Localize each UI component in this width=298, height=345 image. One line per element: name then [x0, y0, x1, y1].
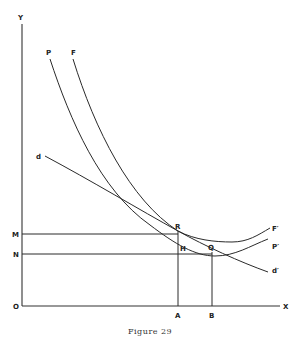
origin-label: O	[13, 303, 19, 311]
x-mark-B-label: B	[209, 312, 214, 320]
curve-P-end-label: P′	[272, 243, 279, 251]
y-mark-M-label: M	[12, 231, 19, 239]
curve-d-end-label: d′	[272, 267, 279, 275]
curve-F-start-label: F	[71, 49, 76, 57]
curve-P-start-label: P	[46, 49, 51, 57]
figure-29-diagram: Y X O P F d F′ P′ d′ R H Q M N A B Figur…	[0, 0, 298, 345]
x-mark-A-label: A	[175, 312, 181, 320]
curve-F	[73, 59, 270, 242]
curve-F-end-label: F′	[272, 225, 279, 233]
point-R-label: R	[175, 223, 181, 231]
point-H-label: H	[180, 245, 186, 253]
x-axis-label: X	[283, 303, 289, 311]
curve-d-start-label: d	[36, 153, 41, 161]
y-mark-N-label: N	[13, 251, 19, 259]
point-Q-label: Q	[208, 244, 214, 252]
figure-caption: Figure 29	[128, 327, 172, 336]
y-axis-label: Y	[17, 14, 24, 22]
